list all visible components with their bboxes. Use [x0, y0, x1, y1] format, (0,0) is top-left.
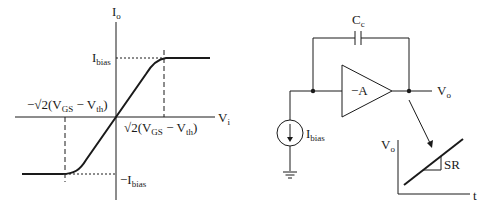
pointer-arrow-head [427, 140, 433, 148]
io-axis-label: Io [112, 5, 121, 18]
slew-t-axis-label: t [473, 189, 477, 202]
current-arrow-head [287, 137, 293, 142]
bias-current-label: Ibias [306, 127, 325, 140]
neg-knee-label: −√2(VGS − Vth) [27, 98, 108, 111]
ibias-level-label: Ibias [92, 51, 111, 64]
input-node-dot [311, 89, 315, 93]
pointer-arrow-shaft [409, 100, 430, 143]
vi-axis-label: Vi [218, 111, 230, 124]
slew-vo-axis-label: Vo [381, 138, 395, 151]
output-node-dot [407, 89, 411, 93]
amplifier-gain-label: −A [351, 84, 368, 97]
pos-knee-label: √2(VGS − Vth) [124, 121, 197, 134]
slew-rate-label: SR [444, 158, 460, 171]
output-voltage-label: Vo [437, 84, 451, 97]
capacitor-label: Cc [352, 13, 365, 26]
neg-ibias-level-label: −Ibias [120, 173, 146, 186]
